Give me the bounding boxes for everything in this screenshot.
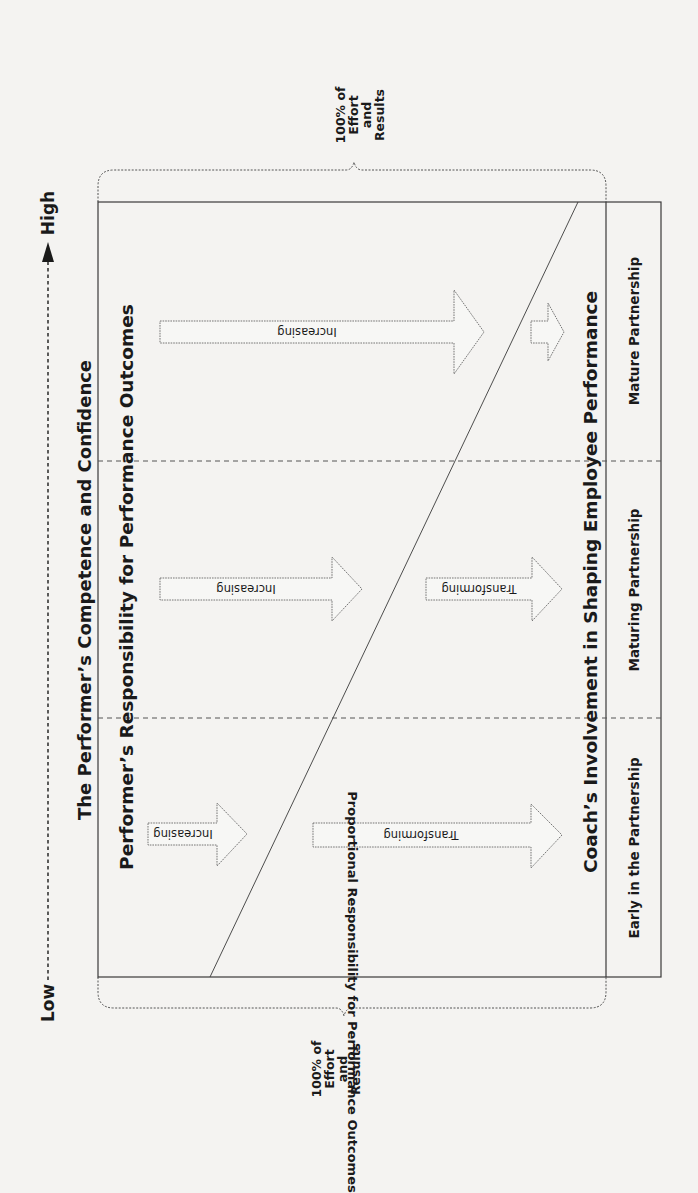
phase-label-maturing: Maturing Partnership [626,509,642,672]
arrow-label-maturing-performer: Increasing [216,582,275,596]
top-brace [98,162,606,202]
brace-bottom-label: 100% of Effort and Results [310,1034,362,1104]
brace-top-line-4: Results [373,80,386,150]
proportional-responsibility-label: Proportional Responsibility for Performa… [345,791,360,1192]
arrow-label-maturing-coach: Transforming [442,582,517,596]
axis-low-label: Low [38,984,58,1022]
coach-involvement-title: Coach’s Involvement in Shaping Employee … [580,291,601,873]
arrow-label-early-coach: Transforming [384,828,459,842]
phase-label-mature: Mature Partnership [626,257,642,405]
axis-title: The Performer’s Competence and Confidenc… [74,360,95,820]
performer-responsibility-title: Performer’s Responsibility for Performan… [116,304,137,870]
phase-label-early: Early in the Partnership [626,757,642,938]
brace-top-label: 100% of Effort and Results [334,80,386,150]
brace-bottom-line-4: Results [349,1034,362,1104]
arrow-label-mature-performer: Increasing [277,325,336,339]
axis-high-label: High [38,191,58,235]
axis-arrowhead-icon [42,242,54,262]
arrow-mature-coach [531,303,564,361]
arrow-label-early-performer: Increasing [153,827,212,841]
